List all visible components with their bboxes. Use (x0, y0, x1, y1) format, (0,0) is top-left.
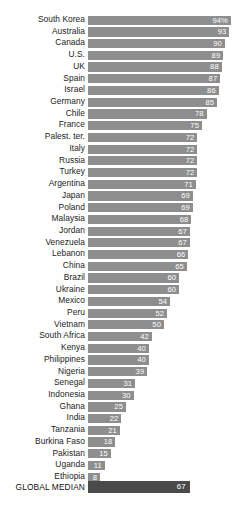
bar: 94% (88, 16, 231, 25)
bar-track: 87 (88, 74, 240, 83)
bar-value-label: 25 (114, 402, 123, 411)
bar-track: 85 (88, 98, 240, 107)
bar-track: 65 (88, 262, 240, 271)
bar: 67 (88, 227, 190, 236)
bar-rows: South Korea94%Australia93Canada90U.S.89U… (0, 15, 240, 484)
bar-value-label: 71 (184, 180, 193, 189)
bar-row: Chile78 (0, 109, 240, 121)
bar-row-label: UK (1, 62, 85, 72)
bar: 89 (88, 51, 223, 60)
bar-value-label: 67 (178, 227, 187, 236)
bar: 66 (88, 250, 188, 259)
bar-row-label: Chile (1, 109, 85, 119)
bar-row: Brazil60 (0, 273, 240, 285)
bar-track: 15 (88, 449, 240, 458)
bar-value-label: 69 (181, 191, 190, 200)
bar-row: Australia93 (0, 27, 240, 39)
bar-value-label: 60 (168, 273, 177, 282)
bar: 71 (88, 180, 196, 189)
bar-row-label: Italy (1, 144, 85, 154)
bar-track: 22 (88, 414, 240, 423)
bar-value-label: 90 (213, 39, 222, 48)
bar-row-label: Palest. ter. (1, 132, 85, 142)
bar-row-label: Jordan (1, 226, 85, 236)
bar-row-label: Poland (1, 203, 85, 213)
bar-track: 60 (88, 285, 240, 294)
bar-track: 86 (88, 86, 240, 95)
bar-row: Pakistan15 (0, 449, 240, 461)
bar-value-label: 30 (122, 391, 131, 400)
bar: 54 (88, 297, 170, 306)
bar-value-label: 72 (186, 133, 195, 142)
bar-track: 71 (88, 180, 240, 189)
bar-row: Peru52 (0, 308, 240, 320)
bar-row: Vietnam50 (0, 320, 240, 332)
bar-track: 40 (88, 344, 240, 353)
bar-value-label: 89 (212, 51, 221, 60)
bar-value-label: 65 (175, 262, 184, 271)
bar-row-label: Vietnam (1, 320, 85, 330)
bar-row: Russia72 (0, 156, 240, 168)
bar-row-label: Canada (1, 38, 85, 48)
bar-value-label: 68 (180, 215, 189, 224)
bar-row: Malaysia68 (0, 214, 240, 226)
bar-row-label: Senegal (1, 378, 85, 388)
bar-track: 25 (88, 402, 240, 411)
bar-row-label: Spain (1, 74, 85, 84)
bar-row: Indonesia30 (0, 390, 240, 402)
bar-row: Turkey72 (0, 167, 240, 179)
bar-row-label: Uganda (1, 460, 85, 470)
bar: 68 (88, 215, 191, 224)
bar-track: 11 (88, 461, 240, 470)
bar: 40 (88, 344, 149, 353)
bar-row: Canada90 (0, 38, 240, 50)
bar-row: France75 (0, 120, 240, 132)
bar-row: Lebanon66 (0, 249, 240, 261)
global-median-value: 67 (177, 481, 186, 493)
bar-row-label: Germany (1, 97, 85, 107)
bar-value-label: 87 (209, 74, 218, 83)
bar: 39 (88, 367, 147, 376)
bar: 52 (88, 309, 167, 318)
bar: 90 (88, 39, 225, 48)
bar-track: 66 (88, 250, 240, 259)
bar-track: 68 (88, 215, 240, 224)
bar-row: China65 (0, 261, 240, 273)
bar-track: 67 (88, 227, 240, 236)
bar-track: 67 (88, 238, 240, 247)
bar-track: 88 (88, 62, 240, 71)
bar-row: India22 (0, 413, 240, 425)
bar-track: 54 (88, 297, 240, 306)
bar: 69 (88, 203, 193, 212)
bar: 22 (88, 414, 121, 423)
bar-value-label: 22 (110, 414, 119, 423)
bar-row: Mexico54 (0, 296, 240, 308)
bar-track: 21 (88, 426, 240, 435)
bar-row-label: South Korea (1, 15, 85, 25)
bar-value-label: 40 (137, 344, 146, 353)
bar-track: 52 (88, 309, 240, 318)
bar-row-label: Burkina Faso (1, 437, 85, 447)
bar: 85 (88, 98, 217, 107)
bar-row-label: Nigeria (1, 367, 85, 377)
bar-row: Ukraine60 (0, 285, 240, 297)
bar-track: 90 (88, 39, 240, 48)
bar-value-label: 11 (94, 461, 102, 470)
bar: 72 (88, 145, 197, 154)
bar-row: UK88 (0, 62, 240, 74)
bar-value-label: 18 (104, 437, 113, 446)
bar-row-label: Japan (1, 191, 85, 201)
bar-value-label: 60 (168, 285, 177, 294)
bar-track: 94% (88, 16, 240, 25)
bar: 11 (88, 461, 105, 470)
bar-row: Italy72 (0, 144, 240, 156)
bar-row-label: Philippines (1, 355, 85, 365)
bar: 42 (88, 332, 152, 341)
bar-track: 50 (88, 320, 240, 329)
bar-row-label: Mexico (1, 296, 85, 306)
bar-value-label: 72 (186, 156, 195, 165)
bar: 60 (88, 285, 179, 294)
bar-row: Germany85 (0, 97, 240, 109)
bar: 75 (88, 121, 202, 130)
bar-row-label: Turkey (1, 167, 85, 177)
